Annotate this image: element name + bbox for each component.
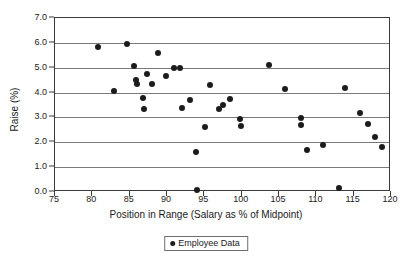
x-axis-tick-label: 95 [198,195,208,204]
gridline [55,117,389,118]
y-axis-tick-label: 7.0 [34,13,47,22]
x-axis-tick-label: 80 [86,195,96,204]
data-point [131,63,137,69]
x-axis-tick-mark [166,191,167,196]
data-point [111,88,117,94]
data-point [237,116,243,122]
x-axis-tick-mark [91,191,92,196]
data-point [227,96,233,102]
legend-marker-icon [170,241,175,246]
data-point [336,185,342,191]
y-axis: 0.01.02.03.04.05.06.07.0 [0,0,54,263]
data-point [282,86,288,92]
x-axis-tick-label: 120 [382,195,397,204]
data-point [149,81,155,87]
y-axis-tick-label: 2.0 [34,137,47,146]
gridline [55,43,389,44]
data-point [238,123,244,129]
data-point [155,50,161,56]
data-point [357,110,363,116]
data-point [179,105,185,111]
data-point [320,142,326,148]
data-point [193,149,199,155]
gridline [55,167,389,168]
data-point [365,121,371,127]
y-axis-tick-label: 1.0 [34,162,47,171]
legend: Employee Data [164,236,248,251]
x-axis-tick-label: 90 [161,195,171,204]
legend-label: Employee Data [178,238,240,248]
data-point [95,44,101,50]
data-point [140,95,146,101]
data-point [177,65,183,71]
x-axis-title: Position in Range (Salary as % of Midpoi… [0,209,412,220]
y-axis-tick-label: 0.0 [34,187,47,196]
x-axis-tick-mark [54,191,55,196]
x-axis-tick-mark [278,191,279,196]
data-point [134,81,140,87]
y-axis-tick-label: 4.0 [34,87,47,96]
plot-area [54,17,390,191]
data-point [141,106,147,112]
y-axis-tick-label: 5.0 [34,62,47,71]
y-axis-tick-label: 6.0 [34,37,47,46]
data-point [202,124,208,130]
x-axis-tick-label: 85 [124,195,134,204]
data-point [372,134,378,140]
x-axis-tick-mark [241,191,242,196]
y-axis-tick-label: 3.0 [34,112,47,121]
data-point [163,73,169,79]
data-point [207,82,213,88]
x-axis-tick-label: 110 [308,195,322,204]
data-point [342,85,348,91]
x-axis-tick-mark [315,191,316,196]
x-axis-tick-mark [390,191,391,196]
data-point [298,122,304,128]
data-point [298,115,304,121]
x-axis-tick-label: 105 [270,195,285,204]
x-axis-tick-mark [353,191,354,196]
scatter-chart: Raise (%) 0.01.02.03.04.05.06.07.0 Posit… [0,0,412,263]
data-point [220,102,226,108]
data-point [187,97,193,103]
x-axis-tick-label: 100 [233,195,248,204]
gridline [55,142,389,143]
data-point [266,62,272,68]
x-axis-tick-mark [129,191,130,196]
data-point [144,71,150,77]
gridline [55,93,389,94]
data-point [304,147,310,153]
data-point [379,144,385,150]
data-point [194,187,200,193]
gridline [55,68,389,69]
x-axis-tick-mark [203,191,204,196]
data-point [124,41,130,47]
x-axis-tick-label: 115 [345,195,359,204]
x-axis-tick-label: 75 [49,195,59,204]
